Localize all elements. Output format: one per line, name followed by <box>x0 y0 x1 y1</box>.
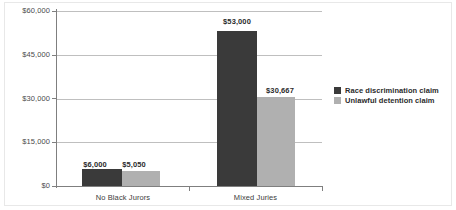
bar-no-black-jurors-unlawful-detention <box>122 171 160 186</box>
bar-mixed-juries-race-discrimination <box>217 31 257 186</box>
legend-item-unlawful-detention-claim: Unlawful detention claim <box>334 96 439 105</box>
bar-value-label-mixed-juries-race-discrimination: $53,000 <box>202 17 272 26</box>
gridline-60000 <box>57 11 322 12</box>
x-category-label-no-black-jurors: No Black Jurors <box>57 193 189 202</box>
gridline-45000 <box>57 55 322 56</box>
legend-label-unlawful-detention-claim: Unlawful detention claim <box>345 96 435 105</box>
legend-swatch-icon-race-discrimination-claim <box>334 87 341 94</box>
bar-value-label-no-black-jurors-unlawful-detention: $5,050 <box>99 160 169 169</box>
legend-swatch-icon-unlawful-detention-claim <box>334 97 341 104</box>
y-tick-label-1: $15,000 <box>0 137 50 146</box>
y-tick-label-2: $30,000 <box>0 94 50 103</box>
bar-no-black-jurors-race-discrimination <box>82 169 122 187</box>
y-tick-label-0: $0 <box>0 181 50 190</box>
legend-label-race-discrimination-claim: Race discrimination claim <box>345 86 439 95</box>
bar-chart: $0 $15,000 $30,000 $45,000 $60,000 $6,00… <box>0 0 456 210</box>
y-tick-label-3: $45,000 <box>0 50 50 59</box>
x-tick-mark-end <box>322 187 323 191</box>
legend: Race discrimination claim Unlawful deten… <box>334 86 439 106</box>
y-tick-label-4: $60,000 <box>0 6 50 15</box>
legend-item-race-discrimination-claim: Race discrimination claim <box>334 86 439 95</box>
x-category-label-mixed-juries: Mixed Juries <box>189 193 322 202</box>
x-tick-mark-divider <box>189 187 190 191</box>
bar-mixed-juries-unlawful-detention <box>257 97 295 186</box>
bar-value-label-mixed-juries-unlawful-detention: $30,667 <box>245 86 315 95</box>
